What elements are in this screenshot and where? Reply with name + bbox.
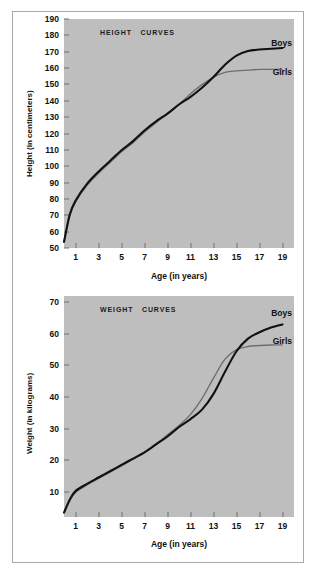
height-ytick-70: 70 bbox=[50, 210, 59, 220]
height-ytick-100: 100 bbox=[45, 161, 59, 171]
height-xtick-3: 3 bbox=[96, 252, 101, 262]
height-boys-curve bbox=[64, 48, 283, 242]
weight-boys-curve bbox=[64, 324, 283, 512]
height-plot-area: HEIGHT CURVES 190 180 170 160 150 140 13… bbox=[64, 19, 294, 248]
height-curves-svg bbox=[64, 19, 294, 248]
height-boys-label: Boys bbox=[271, 38, 292, 48]
weight-x-axis-label: Age (in years) bbox=[64, 539, 294, 549]
height-xtick-15: 15 bbox=[232, 252, 241, 262]
height-ytick-50: 50 bbox=[50, 243, 59, 253]
height-ytick-190: 190 bbox=[45, 14, 59, 24]
height-ytick-180: 180 bbox=[45, 30, 59, 40]
weight-girls-curve bbox=[64, 345, 283, 513]
weight-girls-label: Girls bbox=[273, 336, 292, 346]
weight-xtick-9: 9 bbox=[165, 521, 170, 531]
height-xtick-13: 13 bbox=[209, 252, 218, 262]
figure-frame: Height (in centimeters) HEIGHT CURVES 19… bbox=[12, 11, 304, 563]
height-xtick-19: 19 bbox=[278, 252, 287, 262]
height-xtick-1: 1 bbox=[73, 252, 78, 262]
weight-xtick-19: 19 bbox=[278, 521, 287, 531]
height-ytick-120: 120 bbox=[45, 129, 59, 139]
height-ytick-90: 90 bbox=[50, 178, 59, 188]
weight-xtick-1: 1 bbox=[73, 521, 78, 531]
weight-y-axis-label: Weight (in kilograms) bbox=[25, 373, 34, 454]
height-ytick-140: 140 bbox=[45, 96, 59, 106]
height-girls-curve bbox=[64, 69, 283, 242]
height-ytick-80: 80 bbox=[50, 194, 59, 204]
growth-curves-figure: Height (in centimeters) HEIGHT CURVES 19… bbox=[13, 12, 303, 562]
height-ytick-150: 150 bbox=[45, 79, 59, 89]
height-xtick-5: 5 bbox=[119, 252, 124, 262]
weight-ytick-70: 70 bbox=[50, 297, 59, 307]
height-ytick-160: 160 bbox=[45, 63, 59, 73]
height-xtick-11: 11 bbox=[186, 252, 195, 262]
height-xtick-9: 9 bbox=[165, 252, 170, 262]
weight-ytick-50: 50 bbox=[50, 360, 59, 370]
height-ytick-130: 130 bbox=[45, 112, 59, 122]
weight-xtick-5: 5 bbox=[119, 521, 124, 531]
weight-xtick-11: 11 bbox=[186, 521, 195, 531]
weight-ytick-20: 20 bbox=[50, 455, 59, 465]
weight-xtick-3: 3 bbox=[96, 521, 101, 531]
weight-ytick-10: 10 bbox=[50, 487, 59, 497]
weight-plot-area: WEIGHT CURVES 70 60 50 40 30 20 10 1 bbox=[64, 296, 294, 517]
weight-boys-label: Boys bbox=[271, 308, 292, 318]
weight-curves-svg bbox=[64, 296, 294, 517]
weight-xtick-15: 15 bbox=[232, 521, 241, 531]
weight-ytick-60: 60 bbox=[50, 329, 59, 339]
height-xtick-17: 17 bbox=[255, 252, 264, 262]
weight-xtick-7: 7 bbox=[142, 521, 147, 531]
height-xtick-7: 7 bbox=[142, 252, 147, 262]
weight-chart: Weight (in kilograms) WEIGHT CURVES 70 6… bbox=[13, 294, 305, 564]
weight-xtick-13: 13 bbox=[209, 521, 218, 531]
height-x-axis-label: Age (in years) bbox=[64, 271, 294, 281]
height-y-axis-label: Height (in centimeters) bbox=[25, 90, 34, 177]
height-girls-label: Girls bbox=[273, 67, 292, 77]
weight-ytick-40: 40 bbox=[50, 392, 59, 402]
height-ytick-60: 60 bbox=[50, 227, 59, 237]
weight-xtick-17: 17 bbox=[255, 521, 264, 531]
weight-ytick-30: 30 bbox=[50, 424, 59, 434]
height-ytick-110: 110 bbox=[45, 145, 59, 155]
height-chart: Height (in centimeters) HEIGHT CURVES 19… bbox=[13, 12, 305, 294]
height-ytick-170: 170 bbox=[45, 47, 59, 57]
